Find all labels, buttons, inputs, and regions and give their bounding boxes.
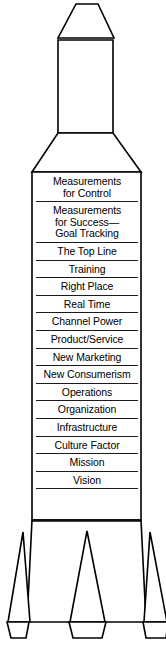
list-item: Product/Service [33,331,141,349]
rocket-diagram: Measurements for Control Measurements fo… [0,0,166,658]
stage-label: Measurements for Success— Goal Tracking [33,205,141,240]
upper-tube-icon [58,40,113,133]
stage-label: Mission [33,457,141,469]
stage-label: Real Time [33,299,141,311]
list-item: Vision [33,472,141,490]
list-item: Mission [33,454,141,472]
stage-label: Measurements for Control [33,176,141,199]
shoulder-taper-icon [32,133,141,172]
stage-label: New Consumerism [33,369,141,381]
list-item: Right Place [33,278,141,296]
list-item: Real Time [33,296,141,314]
list-item: Measurements for Success— Goal Tracking [33,202,141,243]
list-item: Operations [33,384,141,402]
stage-label: The Top Line [33,246,141,258]
stage-label: Right Place [33,281,141,293]
fin-left-icon [8,532,30,622]
foot-center-icon [69,622,106,638]
stage-label: Culture Factor [33,440,141,452]
stage-label: New Marketing [33,352,141,364]
foot-right-icon [143,622,166,638]
foot-left-icon [7,622,29,638]
stage-label: Organization [33,404,141,416]
list-item: Infrastructure [33,419,141,437]
list-item: Measurements for Control [33,173,141,202]
list-item: Channel Power [33,313,141,331]
fin-right-icon [144,532,166,622]
list-item: Training [33,261,141,279]
list-item: New Consumerism [33,366,141,384]
stage-label: Training [33,264,141,276]
list-item: New Marketing [33,349,141,367]
stage-label: Infrastructure [33,422,141,434]
list-item: The Top Line [33,243,141,261]
stage-label: Channel Power [33,316,141,328]
stage-list: Measurements for Control Measurements fo… [33,173,141,489]
stage-label: Vision [33,475,141,487]
stage-divider [36,488,138,489]
nose-cone-icon [58,4,114,38]
list-item: Culture Factor [33,437,141,455]
stage-label: Operations [33,387,141,399]
stage-label: Product/Service [33,334,141,346]
list-item: Organization [33,401,141,419]
